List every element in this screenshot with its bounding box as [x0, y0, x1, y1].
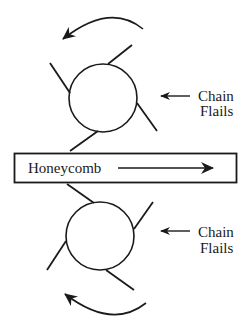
honeycomb-conveyor: Honeycomb: [15, 154, 237, 183]
label-flails: Flails: [200, 103, 234, 119]
chain-flail: [108, 45, 132, 64]
curved-arrow-ccw-icon: [63, 18, 143, 39]
chain-flail: [106, 270, 134, 290]
top-rotation-arrow: [63, 18, 143, 39]
chain-flail-diagram: Chain Flails Honeycomb Chain Flails: [0, 0, 247, 327]
chain-flail: [67, 184, 94, 203]
chain-flail: [134, 202, 153, 229]
top-rotor-label: Chain Flails: [161, 88, 234, 119]
label-chain: Chain: [198, 224, 234, 240]
label-flails: Flails: [200, 240, 234, 256]
bottom-rotor-label: Chain Flails: [161, 224, 234, 256]
bottom-rotor: [47, 184, 153, 290]
top-rotor: [50, 45, 157, 151]
rotor-drum: [69, 64, 137, 132]
rotor-drum: [66, 202, 134, 270]
label-honeycomb: Honeycomb: [28, 160, 101, 176]
chain-flail: [137, 103, 157, 131]
chain-flail: [50, 63, 70, 93]
label-chain: Chain: [198, 88, 234, 104]
curved-arrow-cw-icon: [65, 294, 146, 315]
chain-flail: [70, 131, 98, 151]
bottom-rotation-arrow: [65, 294, 146, 315]
chain-flail: [47, 241, 66, 270]
